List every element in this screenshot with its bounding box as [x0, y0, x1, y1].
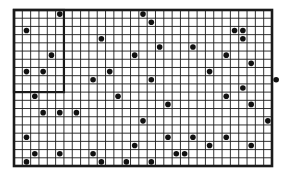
dot	[157, 44, 163, 50]
dot	[140, 11, 146, 17]
dot	[124, 159, 130, 165]
dot	[74, 110, 80, 116]
dot	[248, 143, 254, 149]
dot	[240, 28, 246, 34]
dot	[190, 44, 196, 50]
dot	[24, 134, 30, 140]
outer-frame	[14, 10, 272, 166]
dot	[24, 69, 30, 75]
dot	[99, 159, 105, 165]
dot	[40, 69, 46, 75]
dot	[40, 110, 46, 116]
dot	[223, 52, 229, 58]
dot	[232, 28, 238, 34]
grid-lines	[14, 10, 272, 166]
dot	[24, 159, 30, 165]
dot	[149, 77, 155, 83]
dot	[173, 151, 179, 157]
dot	[165, 134, 171, 140]
dot	[99, 36, 105, 42]
dot	[223, 134, 229, 140]
dot-grid-figure	[0, 0, 285, 186]
dot	[165, 102, 171, 108]
dot	[107, 69, 113, 75]
dot	[149, 20, 155, 26]
dot	[240, 36, 246, 42]
dot	[207, 143, 213, 149]
frame-border	[14, 10, 272, 166]
dot	[115, 93, 121, 99]
dot	[24, 28, 30, 34]
dot	[240, 85, 246, 91]
dot	[265, 118, 271, 124]
dot	[149, 159, 155, 165]
dot	[32, 151, 38, 157]
dot	[248, 102, 254, 108]
dot	[90, 151, 96, 157]
dot	[190, 134, 196, 140]
dot	[182, 151, 188, 157]
dot	[57, 151, 63, 157]
dot	[49, 52, 55, 58]
dot	[32, 93, 38, 99]
dot	[248, 61, 254, 67]
dot	[57, 11, 63, 17]
dot	[132, 143, 138, 149]
dot	[207, 69, 213, 75]
dot	[273, 77, 279, 83]
dot	[140, 118, 146, 124]
dot	[90, 77, 96, 83]
dot	[132, 52, 138, 58]
dot	[223, 93, 229, 99]
dot	[57, 110, 63, 116]
